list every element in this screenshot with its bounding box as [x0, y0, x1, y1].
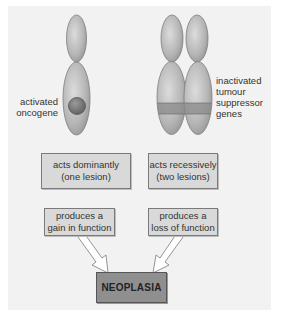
- loss-of-function-box: produces a loss of function: [148, 208, 218, 236]
- arrow-left-to-neoplasia-icon: [78, 233, 108, 273]
- box-line: gain in function: [48, 222, 112, 234]
- box-line: produces a: [56, 210, 103, 222]
- box-line: (one lesion): [61, 171, 111, 183]
- label-line: inactivated: [216, 75, 263, 86]
- gain-in-function-box: produces a gain in function: [44, 208, 115, 236]
- neoplasia-box: NEOPLASIA: [96, 272, 167, 303]
- label-line: suppressor: [216, 97, 263, 108]
- box-line: loss of function: [151, 222, 214, 234]
- oncogene-spot-icon: [69, 98, 86, 115]
- box-line: acts recessively: [149, 159, 216, 171]
- box-line: produces a: [159, 210, 206, 222]
- neoplasia-label: NEOPLASIA: [101, 282, 161, 293]
- box-line: (two lesions): [156, 171, 209, 183]
- tumour-suppressor-label: inactivated tumour suppressor genes: [216, 75, 263, 119]
- label-line: tumour: [216, 86, 263, 97]
- label-line: genes: [216, 108, 263, 119]
- tumour-suppressor-chromosomes: [155, 15, 215, 135]
- label-line: oncogene: [6, 107, 58, 118]
- acts-recessively-box: acts recessively (two lesions): [148, 153, 218, 189]
- acts-dominantly-box: acts dominantly (one lesion): [41, 153, 131, 189]
- label-line: activated: [6, 96, 58, 107]
- arrow-right-to-neoplasia-icon: [153, 233, 183, 273]
- box-line: acts dominantly: [53, 159, 119, 171]
- oncogene-chromosome: [63, 15, 90, 135]
- activated-oncogene-label: activated oncogene: [6, 96, 58, 118]
